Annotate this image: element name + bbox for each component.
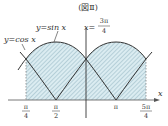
sin-label: y=sin x xyxy=(35,23,67,32)
tick-5pi-over-4-num: 5π xyxy=(142,103,151,111)
tick-pi: π xyxy=(114,103,119,111)
vline-label-left: x= xyxy=(84,23,95,32)
vline-label-num: 3π xyxy=(100,17,109,25)
x-axis-label: x xyxy=(158,89,163,98)
diagram: (図Ⅱ) y=sin x y=cos x x= 3π 4 x π 4 π 2 π… xyxy=(0,0,168,126)
tick-5pi-over-4-den: 4 xyxy=(144,112,148,120)
tick-pi-over-2-num: π xyxy=(54,103,59,111)
tick-pi-over-2-den: 2 xyxy=(54,112,58,120)
cos-leader xyxy=(22,44,25,50)
vline-label-den: 4 xyxy=(102,27,106,35)
tick-pi-over-4-num: π xyxy=(24,103,29,111)
sin-leader xyxy=(54,31,58,42)
x-axis-arrow xyxy=(154,98,160,102)
figure-title: (図Ⅱ) xyxy=(78,3,98,12)
cos-label: y=cos x xyxy=(3,35,36,44)
tick-pi-over-4-den: 4 xyxy=(24,112,28,120)
